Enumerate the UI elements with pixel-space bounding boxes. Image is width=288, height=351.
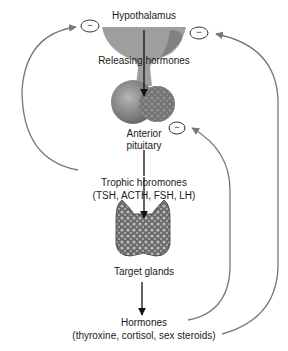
minus-sign-right: − (191, 27, 207, 38)
pituitary-shape (111, 68, 175, 124)
feedback-arrow-hormones-to-pituitary (188, 128, 230, 320)
label-anterior: Anterior (104, 128, 184, 139)
label-releasing-hormones: Releasing hormones (84, 55, 204, 66)
diagram-canvas (0, 0, 288, 351)
label-hormones-list: (thyroxine, cortisol, sex steroids) (54, 330, 234, 341)
label-hypothalamus: Hypothalamus (94, 10, 194, 21)
minus-sign-left: − (82, 20, 98, 31)
target-gland-shape (116, 200, 170, 256)
feedback-arrow-trophic-to-hypothalamus (22, 27, 78, 170)
label-target-glands: Target glands (94, 266, 194, 277)
label-trophic-hormones: Trophic horomones (84, 177, 204, 188)
feedback-arrow-hormones-to-hypothalamus (216, 34, 278, 334)
label-pituitary: pituitary (104, 140, 184, 151)
label-trophic-list: (TSH, ACTH, FSH, LH) (74, 190, 214, 201)
label-hormones: Hormones (94, 317, 194, 328)
